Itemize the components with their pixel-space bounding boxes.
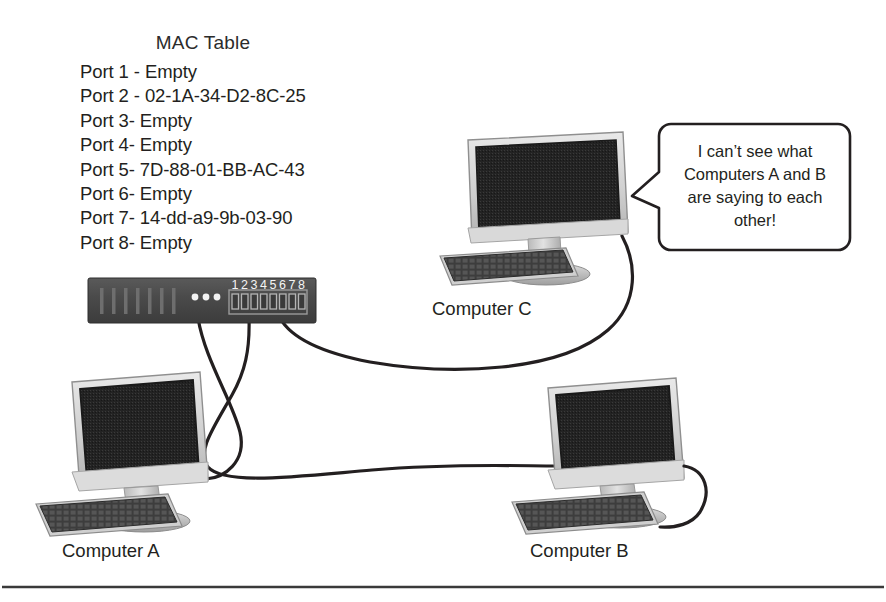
computer-b[interactable] xyxy=(512,378,706,534)
mac-table-row: Port 8- Empty xyxy=(80,231,360,255)
svg-text:5: 5 xyxy=(270,278,277,292)
svg-text:2: 2 xyxy=(241,278,248,292)
mac-table-list: Port 1 - Empty Port 2 - 02-1A-34-D2-8C-2… xyxy=(80,60,360,255)
computer-a-monitor xyxy=(72,372,208,491)
computer-c[interactable] xyxy=(440,132,628,285)
computer-c-label: Computer C xyxy=(432,298,532,320)
mac-table-title: MAC Table xyxy=(78,32,328,54)
mac-table-row: Port 3- Empty xyxy=(80,109,360,133)
computer-b-monitor xyxy=(548,378,684,489)
mac-table-row: Port 7- 14-dd-a9-9b-03-90 xyxy=(80,206,360,230)
svg-text:7: 7 xyxy=(289,278,296,292)
cable-switch-to-computer-b xyxy=(204,318,556,478)
mac-table-row: Port 5- 7D-88-01-BB-AC-43 xyxy=(80,158,360,182)
network-switch[interactable]: 1 2 3 4 5 6 7 8 xyxy=(88,278,316,323)
computer-b-label: Computer B xyxy=(530,540,629,562)
speech-bubble-line: I can’t see what xyxy=(664,140,846,163)
computer-c-monitor xyxy=(468,132,628,243)
mac-table-row: Port 4- Empty xyxy=(80,133,360,157)
speech-bubble-text: I can’t see what Computers A and B are s… xyxy=(664,140,846,232)
speech-bubble-line: other! xyxy=(664,209,846,232)
diagram-canvas: 1 2 3 4 5 6 7 8 MAC Table Port 1 - Empty… xyxy=(0,0,886,602)
svg-text:8: 8 xyxy=(298,278,305,292)
computer-a[interactable] xyxy=(36,372,208,536)
speech-bubble-line: are saying to each xyxy=(664,186,846,209)
mac-table-row: Port 6- Empty xyxy=(80,182,360,206)
svg-text:6: 6 xyxy=(279,278,286,292)
svg-text:3: 3 xyxy=(251,278,258,292)
mac-table-row: Port 2 - 02-1A-34-D2-8C-25 xyxy=(80,84,360,108)
computer-a-label: Computer A xyxy=(62,540,160,562)
switch-led-indicators xyxy=(192,294,221,301)
svg-text:4: 4 xyxy=(260,278,267,292)
svg-text:1: 1 xyxy=(232,278,239,292)
mac-table-row: Port 1 - Empty xyxy=(80,60,360,84)
speech-bubble-line: Computers A and B xyxy=(664,163,846,186)
